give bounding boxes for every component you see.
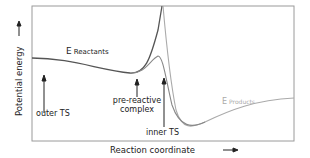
- inner-ts-label: inner TS: [146, 128, 179, 137]
- x-axis-label: Reaction coordinate: [110, 145, 195, 155]
- pre-reactive-arrow: [135, 79, 139, 97]
- inner-ts-arrow: [162, 78, 166, 127]
- pre-reactive-label-line2: complex: [120, 105, 154, 114]
- x-axis-arrow-icon: [223, 148, 238, 152]
- plot-frame: [32, 6, 294, 141]
- outer-ts-arrow: [42, 75, 46, 113]
- reactants-label: EReactants: [66, 46, 109, 56]
- outer-ts-label: outer TS: [36, 109, 70, 118]
- reactants-curve: [32, 6, 162, 73]
- pre-reactive-label-line1: pre-reactive: [113, 96, 161, 105]
- products-curve: [163, 6, 294, 126]
- products-label: EProducts: [222, 97, 255, 106]
- adiabatic-curve: [130, 56, 205, 125]
- energy-diagram: EReactants EProducts outer TS pre-reacti…: [0, 0, 310, 158]
- y-axis-label: Potential energy: [14, 46, 24, 116]
- y-axis-arrow-icon: [17, 21, 21, 36]
